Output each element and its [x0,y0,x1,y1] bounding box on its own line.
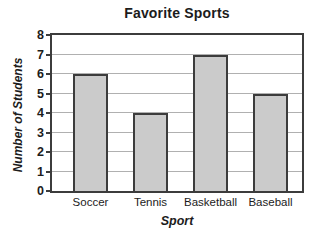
x-tick-label-baseball: Baseball [231,196,311,208]
bar-chart: Favorite Sports Number of Students 01234… [0,0,321,238]
x-axis-label: Sport [50,214,304,228]
x-axis-tick-labels: SoccerTennisBasketballBaseball [0,0,321,238]
